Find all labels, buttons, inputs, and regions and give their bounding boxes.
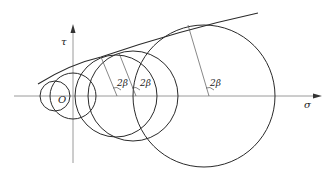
sigma-axis-label: σ	[304, 100, 311, 110]
tau-axis-arrow-icon	[71, 24, 76, 33]
diagram-canvas	[0, 0, 329, 180]
radius-line-1	[101, 57, 117, 96]
tau-axis-label: τ	[61, 37, 67, 47]
angle-label-1: 2β	[117, 79, 128, 88]
radius-line-3	[188, 25, 209, 96]
origin-label: O	[58, 95, 66, 105]
angle-label-2: 2β	[140, 79, 151, 88]
sigma-axis-arrow-icon	[313, 94, 322, 99]
angle-label-3: 2β	[210, 79, 221, 88]
mohr-circle-diagram: τ σ O 2β 2β 2β	[0, 0, 329, 180]
